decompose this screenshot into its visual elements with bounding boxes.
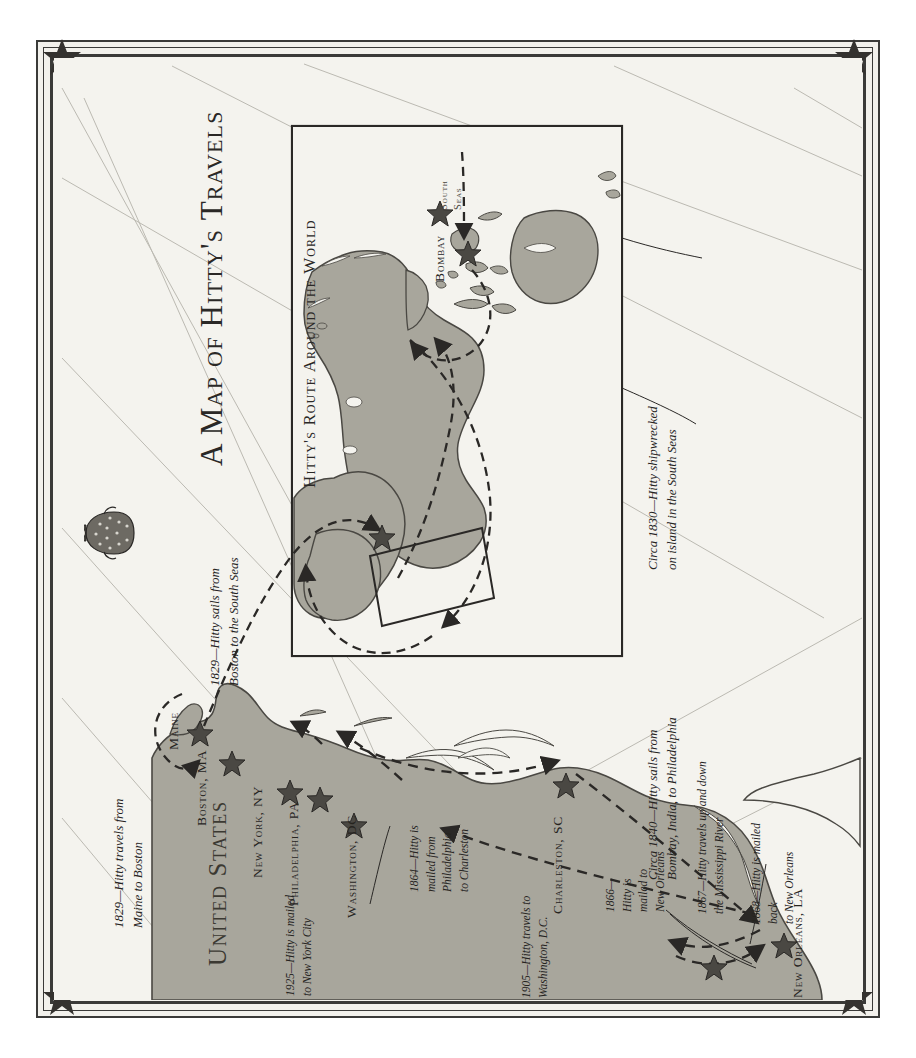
annotation-line: to New Orleans [781,810,798,924]
annotation-1905-washington: 1905—Hitty travels to Washington, D.C. [518,896,551,998]
annotation-line: Circa 1830—Hitty shipwrecked [644,406,663,570]
annotation-line: to Charleston [456,825,473,892]
annotation-line: the Mississippi River [711,761,728,914]
inset-label-south-seas-line2: Seas [452,187,463,210]
annotation-1867-mississippi: 1867—Hitty travels up and down the Missi… [694,761,727,914]
annotation-line: on island in the South Seas [663,406,682,570]
map-canvas: A Map of Hitty's Travels Hitty's Route A… [54,58,862,1000]
place-label-philadelphia: Philadelphia, PA [286,801,302,906]
annotation-1830-shipwreck: Circa 1830—Hitty shipwrecked on island i… [644,406,682,570]
annotation-1864-charleston: 1864—Hitty is mailed from Philadelphia t… [406,825,473,892]
annotation-line: Hitty is [619,852,636,912]
country-label-united-states: United States [204,800,232,966]
annotation-line: 1905—Hitty travels to [518,896,535,998]
annotation-line: mailed to [635,852,652,912]
place-label-washington: Washington, DC [344,815,360,918]
place-label-maine: Maine [166,712,182,750]
map-subtitle: Hitty's Route Around the World [300,220,320,488]
inset-label-south-seas-line1: South [438,180,449,210]
hitty-doll-illustration [84,488,154,578]
annotation-line: 1829—Hitty travels from [110,798,129,928]
page-title: A Map of Hitty's Travels [194,110,230,466]
place-label-charleston: Charleston, SC [550,816,566,914]
annotation-line: 1864—Hitty is [406,825,423,892]
annotation-line: 1829—Hitty sails from [206,557,225,686]
place-label-new-york: New York, NY [250,786,266,878]
annotation-1925-new-york: 1925—Hitty is mailed to New York City [282,895,315,996]
annotation-line: Philadelphia [439,825,456,892]
annotation-line: 1866— [602,852,619,912]
annotation-line: 1925—Hitty is mailed [282,895,299,996]
annotation-line: 1868—Hitty is mailed back [748,810,781,924]
annotation-1829-south-seas: 1829—Hitty sails from Boston to the Sout… [206,557,244,686]
annotation-line: Maine to Boston [129,798,148,928]
annotation-line: to New York City [299,895,316,996]
map-page: A Map of Hitty's Travels Hitty's Route A… [0,0,916,1058]
inset-label-bombay: Bombay [432,235,448,282]
annotation-line: Washington, D.C. [535,896,552,998]
annotation-line: New Orleans [652,852,669,912]
annotation-line: 1867—Hitty travels up and down [694,761,711,914]
annotation-1866-new-orleans: 1866— Hitty is mailed to New Orleans [602,852,669,912]
annotation-1868-mailed-back: 1868—Hitty is mailed back to New Orleans [748,810,798,924]
annotation-1829-maine-boston: 1829—Hitty travels from Maine to Boston [110,798,148,928]
annotation-line: mailed from [423,825,440,892]
annotation-line: Boston to the South Seas [225,557,244,686]
